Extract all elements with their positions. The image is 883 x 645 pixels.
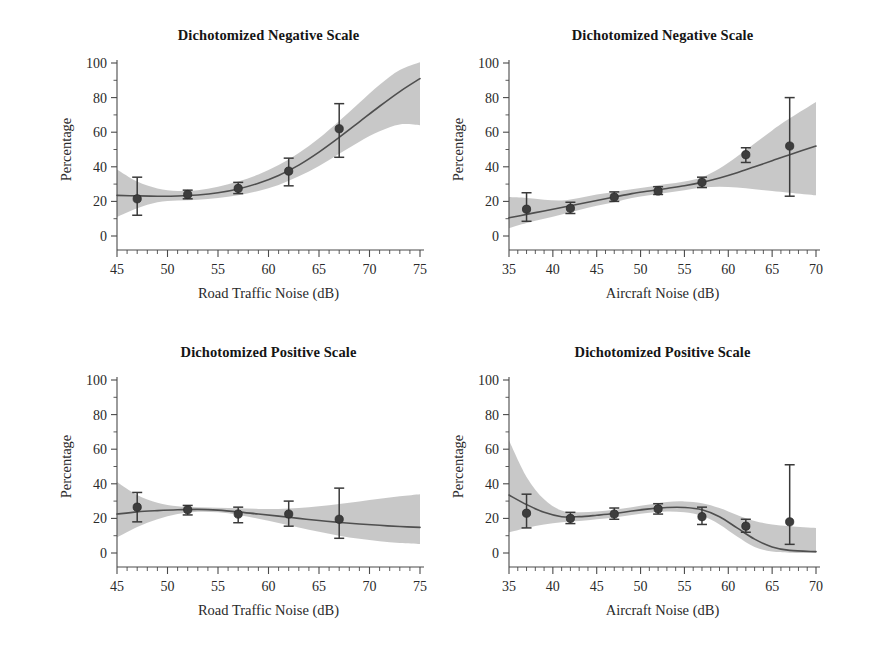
data-point-marker <box>133 503 141 511</box>
x-tick-label-70: 70 <box>363 579 377 594</box>
data-point-marker <box>285 167 293 175</box>
x-tick-label-50: 50 <box>161 262 175 277</box>
figure-canvas: Dichotomized Negative Scale0204060801004… <box>0 0 883 645</box>
y-tick-label-60: 60 <box>485 442 499 457</box>
x-tick-label-55: 55 <box>211 579 225 594</box>
confidence-band <box>117 62 420 217</box>
data-point-marker <box>742 151 750 159</box>
data-point-marker <box>698 178 706 186</box>
x-tick-label-60: 60 <box>721 262 735 277</box>
y-tick-label-0: 0 <box>492 229 499 244</box>
chart-svg-bottom-right: Dichotomized Positive Scale0204060801003… <box>441 322 883 645</box>
x-tick-label-75: 75 <box>413 579 427 594</box>
y-tick-label-40: 40 <box>93 160 107 175</box>
x-tick-label-45: 45 <box>590 262 604 277</box>
chart-svg-top-left: Dichotomized Negative Scale0204060801004… <box>0 0 441 322</box>
x-tick-label-65: 65 <box>312 262 326 277</box>
y-tick-label-40: 40 <box>93 477 107 492</box>
y-tick-label-0: 0 <box>492 546 499 561</box>
data-point-marker <box>234 184 242 192</box>
y-tick-label-20: 20 <box>485 194 499 209</box>
data-point-marker <box>786 142 794 150</box>
y-axis-label: Percentage <box>450 435 466 499</box>
y-axis-label: Percentage <box>58 118 74 182</box>
x-tick-label-50: 50 <box>161 579 175 594</box>
panel-title: Dichotomized Negative Scale <box>178 27 360 43</box>
y-tick-label-60: 60 <box>93 442 107 457</box>
y-axis-label: Percentage <box>58 435 74 499</box>
chart-panel-top-right: Dichotomized Negative Scale0204060801003… <box>441 0 883 322</box>
x-axis-label: Road Traffic Noise (dB) <box>198 602 339 619</box>
y-tick-label-80: 80 <box>93 91 107 106</box>
x-tick-label-60: 60 <box>721 579 735 594</box>
data-point-marker <box>566 514 574 522</box>
y-tick-label-100: 100 <box>86 56 107 71</box>
x-tick-label-35: 35 <box>502 262 516 277</box>
chart-panel-top-left: Dichotomized Negative Scale0204060801004… <box>0 0 441 322</box>
data-point-marker <box>610 193 618 201</box>
y-tick-label-0: 0 <box>100 546 107 561</box>
confidence-band <box>117 482 420 544</box>
data-point-marker <box>698 513 706 521</box>
data-point-marker <box>184 190 192 198</box>
x-tick-label-50: 50 <box>634 579 648 594</box>
y-tick-label-40: 40 <box>485 477 499 492</box>
data-point-marker <box>285 510 293 518</box>
x-tick-label-60: 60 <box>262 579 276 594</box>
x-tick-label-45: 45 <box>590 579 604 594</box>
data-point-marker <box>234 510 242 518</box>
data-point-marker <box>335 125 343 133</box>
panel-title: Dichotomized Positive Scale <box>575 344 751 360</box>
y-tick-label-80: 80 <box>485 408 499 423</box>
chart-svg-bottom-left: Dichotomized Positive Scale0204060801004… <box>0 322 441 645</box>
y-tick-label-60: 60 <box>485 125 499 140</box>
y-tick-label-60: 60 <box>93 125 107 140</box>
x-tick-label-35: 35 <box>502 579 516 594</box>
x-axis-label: Aircraft Noise (dB) <box>606 602 720 619</box>
y-tick-label-20: 20 <box>93 511 107 526</box>
confidence-band <box>509 441 816 553</box>
y-tick-label-100: 100 <box>478 56 499 71</box>
data-point-marker <box>742 522 750 530</box>
x-tick-label-50: 50 <box>634 262 648 277</box>
data-point-marker <box>654 187 662 195</box>
y-tick-label-100: 100 <box>478 373 499 388</box>
data-point-marker <box>522 509 530 517</box>
data-point-marker <box>654 505 662 513</box>
x-tick-label-75: 75 <box>413 262 427 277</box>
data-point-marker <box>566 204 574 212</box>
chart-panel-bottom-right: Dichotomized Positive Scale0204060801003… <box>441 322 883 645</box>
y-axis-label: Percentage <box>450 118 466 182</box>
y-tick-label-100: 100 <box>86 373 107 388</box>
chart-panel-bottom-left: Dichotomized Positive Scale0204060801004… <box>0 322 441 645</box>
data-point-marker <box>522 205 530 213</box>
x-tick-label-70: 70 <box>809 262 823 277</box>
y-tick-label-80: 80 <box>93 408 107 423</box>
y-tick-label-80: 80 <box>485 91 499 106</box>
panel-title: Dichotomized Negative Scale <box>572 27 754 43</box>
chart-svg-top-right: Dichotomized Negative Scale0204060801003… <box>441 0 883 322</box>
x-tick-label-65: 65 <box>312 579 326 594</box>
x-tick-label-65: 65 <box>765 262 779 277</box>
x-tick-label-40: 40 <box>546 262 560 277</box>
x-tick-label-40: 40 <box>546 579 560 594</box>
x-tick-label-55: 55 <box>211 262 225 277</box>
data-point-marker <box>133 195 141 203</box>
x-tick-label-45: 45 <box>110 579 124 594</box>
y-tick-label-40: 40 <box>485 160 499 175</box>
x-axis-label: Road Traffic Noise (dB) <box>198 285 339 302</box>
panel-title: Dichotomized Positive Scale <box>181 344 357 360</box>
y-tick-label-20: 20 <box>93 194 107 209</box>
x-tick-label-60: 60 <box>262 262 276 277</box>
y-tick-label-0: 0 <box>100 229 107 244</box>
data-point-marker <box>184 506 192 514</box>
x-tick-label-65: 65 <box>765 579 779 594</box>
x-tick-label-55: 55 <box>677 262 691 277</box>
x-tick-label-45: 45 <box>110 262 124 277</box>
x-axis-label: Aircraft Noise (dB) <box>606 285 720 302</box>
data-point-marker <box>610 510 618 518</box>
data-point-marker <box>786 518 794 526</box>
x-tick-label-70: 70 <box>809 579 823 594</box>
y-tick-label-20: 20 <box>485 511 499 526</box>
data-point-marker <box>335 515 343 523</box>
